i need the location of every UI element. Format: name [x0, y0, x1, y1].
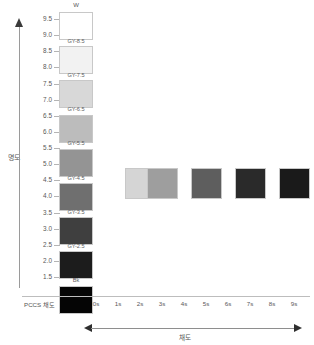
- horizontal-tick-6s: 6s: [218, 299, 238, 309]
- gray-swatch-caption-GY-6-5: GY-6.5: [57, 105, 95, 114]
- chroma-swatch-5s[interactable]: [191, 168, 222, 199]
- white-swatch-label: W: [59, 2, 93, 8]
- gray-swatch-caption-GY-7-5: GY-7.5: [57, 71, 95, 80]
- horizontal-tick-3s: 3s: [152, 299, 172, 309]
- gray-swatch-caption-Bk: Bk: [57, 276, 95, 285]
- vertical-tick-9-0: 9.0: [26, 30, 54, 40]
- horizontal-axis-label-text: 채도: [179, 334, 191, 341]
- vertical-tick-9-5: 9.5: [26, 14, 54, 24]
- vertical-tick-1-5: 1.5: [26, 272, 54, 282]
- vertical-tick-2-5: 2.5: [26, 240, 54, 250]
- vertical-axis-line: [19, 26, 20, 288]
- vertical-axis-ticks: 9.59.08.58.07.57.06.56.05.55.04.54.03.53…: [26, 14, 54, 282]
- chroma-swatch-3s[interactable]: [147, 168, 178, 199]
- gray-swatch-caption-GY-3-5: GY-3.5: [57, 208, 95, 217]
- arrow-right-icon: [294, 324, 302, 332]
- horizontal-tick-5s: 5s: [196, 299, 216, 309]
- chroma-swatch-row: [0, 168, 314, 202]
- vertical-tick-8-5: 8.5: [26, 46, 54, 56]
- horizontal-tick-8s: 8s: [262, 299, 282, 309]
- vertical-tick-5-5: 5.5: [26, 143, 54, 153]
- vertical-tick-6-0: 6.0: [26, 127, 54, 137]
- horizontal-tick-9s: 9s: [284, 299, 304, 309]
- vertical-tick-8-0: 8.0: [26, 62, 54, 72]
- gray-swatch-caption-GY-5-5: GY-5.5: [57, 139, 95, 148]
- vertical-axis-label: 명도: [2, 152, 26, 162]
- horizontal-tick-1s: 1s: [108, 299, 128, 309]
- chroma-swatch-9s[interactable]: [279, 168, 310, 199]
- gray-swatch-caption-GY-8-5: GY-8.5: [57, 37, 95, 46]
- horizontal-tick-2s: 2s: [130, 299, 150, 309]
- horizontal-tick-4s: 4s: [174, 299, 194, 309]
- gray-swatch-caption-GY-2-5: GY-2.5: [57, 242, 95, 251]
- vertical-tick-3-0: 3.0: [26, 224, 54, 234]
- arrow-up-icon: [15, 18, 23, 27]
- vertical-tick-3-5: 3.5: [26, 208, 54, 218]
- horizontal-axis-label: 채도: [0, 332, 314, 342]
- vertical-tick-6-5: 6.5: [26, 111, 54, 121]
- chroma-swatch-7s[interactable]: [235, 168, 266, 199]
- grayscale-column: GY-8.5GY-7.5GY-6.5GY-5.5GY-4.5GY-3.5GY-2…: [59, 12, 93, 292]
- vertical-tick-7-0: 7.0: [26, 95, 54, 105]
- horizontal-axis-line: [22, 296, 310, 297]
- vertical-tick-7-5: 7.5: [26, 79, 54, 89]
- arrow-bar: [91, 328, 295, 329]
- horizontal-tick-0s: 0s: [86, 299, 106, 309]
- horizontal-tick-7s: 7s: [240, 299, 260, 309]
- vertical-tick-2-0: 2.0: [26, 256, 54, 266]
- horizontal-axis-ticks: 0s1s2s3s4s5s6s7s8s9s: [0, 299, 314, 311]
